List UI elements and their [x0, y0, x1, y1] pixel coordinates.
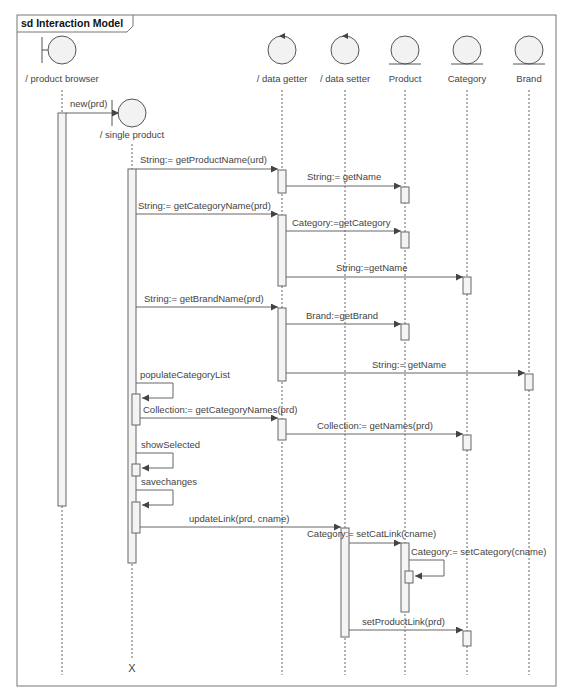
activation-bar: [132, 464, 140, 476]
activation-bar: [278, 308, 286, 381]
self-message-label: populateCategoryList: [140, 369, 230, 380]
message-label: new(prd): [70, 98, 108, 109]
activation-bar: [463, 435, 471, 450]
activation-bar: [278, 419, 286, 440]
message-label: Brand:=getBrand: [306, 310, 378, 321]
control-icon: [268, 33, 296, 64]
activation-bar: [132, 394, 140, 425]
frame-title: sd Interaction Model: [21, 17, 123, 29]
message-label: Category:=getCategory: [292, 217, 391, 228]
message-label: String:= getCategoryName(prd): [138, 200, 271, 211]
self-message-label: showSelected: [141, 439, 200, 450]
self-message-label: savechanges: [141, 476, 197, 487]
self-message: populateCategoryList: [136, 369, 230, 398]
lifeline-label: / data setter: [320, 73, 370, 84]
lifeline-category: Category: [448, 36, 487, 675]
entity-icon: [451, 36, 483, 64]
self-message-arrow: [136, 490, 173, 505]
message: Brand:=getBrand: [286, 310, 401, 324]
activation-bar: [405, 571, 413, 583]
message: Category:= setCatLink(cname): [307, 528, 436, 543]
message: String:=getName: [286, 262, 463, 277]
boundary-circle: [48, 36, 76, 64]
entity-circle: [391, 36, 419, 64]
message-label: String:= getName: [307, 171, 381, 182]
message-label: Collection:= getNames(prd): [317, 420, 433, 431]
lifeline-brand: Brand: [513, 36, 545, 675]
activation-bar: [58, 113, 66, 506]
message: String:= getName: [286, 171, 401, 186]
self-message-arrow: [136, 383, 173, 398]
self-message: savechanges: [136, 476, 197, 505]
message: String:= getCategoryName(prd): [136, 200, 278, 214]
boundary-icon: [42, 36, 76, 64]
message-label: Collection:= getCategoryNames(prd): [143, 404, 297, 415]
self-message: Category:= setCategory(cname): [409, 546, 546, 576]
message: Collection:= getCategoryNames(prd): [140, 404, 297, 418]
activation-bar: [401, 232, 409, 248]
activation-bar: [278, 170, 286, 193]
lifeline-label: Product: [389, 73, 422, 84]
entity-circle: [515, 36, 543, 64]
control-circle: [268, 36, 296, 64]
boundary-circle: [118, 99, 146, 127]
activation-bar: [463, 277, 471, 294]
message: Category:=getCategory: [286, 217, 401, 231]
lifeline-label: Brand: [516, 73, 541, 84]
lifeline-label: / single product: [100, 129, 165, 140]
activation-bar: [401, 187, 409, 203]
destruction-mark: X: [128, 662, 136, 674]
message-label: Category:= setCatLink(cname): [307, 528, 436, 539]
entity-icon: [389, 36, 421, 64]
message: String:= getBrandName(prd): [136, 293, 278, 307]
control-icon: [331, 33, 359, 64]
message-label: updateLink(prd, cname): [189, 513, 289, 524]
activation-bar: [463, 631, 471, 646]
self-message-arrow: [136, 453, 173, 468]
activations: [58, 113, 533, 646]
entity-circle: [453, 36, 481, 64]
entity-icon: [513, 36, 545, 64]
activation-bar: [401, 324, 409, 340]
message-label: setProductLink(prd): [362, 616, 445, 627]
message-label: String:=getName: [336, 262, 408, 273]
message-label: String:= getProductName(urd): [140, 154, 267, 165]
activation-bar: [525, 374, 533, 390]
message: new(prd): [66, 98, 119, 113]
activation-bar: [132, 502, 140, 533]
self-message: showSelected: [136, 439, 200, 468]
message: Collection:= getNames(prd): [286, 420, 463, 434]
activation-bar: [278, 215, 286, 286]
lifeline-label: / product browser: [25, 73, 98, 84]
message: String:= getProductName(urd): [136, 154, 278, 169]
control-circle: [331, 36, 359, 64]
message-label: String:= getName: [372, 359, 446, 370]
message-label: String:= getBrandName(prd): [144, 293, 264, 304]
sequence-diagram: sd Interaction Model / product browser/ …: [0, 0, 570, 698]
message: setProductLink(prd): [349, 616, 463, 630]
self-message-label: Category:= setCategory(cname): [411, 546, 546, 557]
messages: new(prd)String:= getProductName(urd)Stri…: [66, 98, 546, 630]
lifeline-label: Category: [448, 73, 487, 84]
self-message-arrow: [409, 560, 444, 576]
lifeline-label: / data getter: [257, 73, 308, 84]
message: updateLink(prd, cname): [140, 513, 341, 527]
activation-bar: [341, 528, 349, 637]
